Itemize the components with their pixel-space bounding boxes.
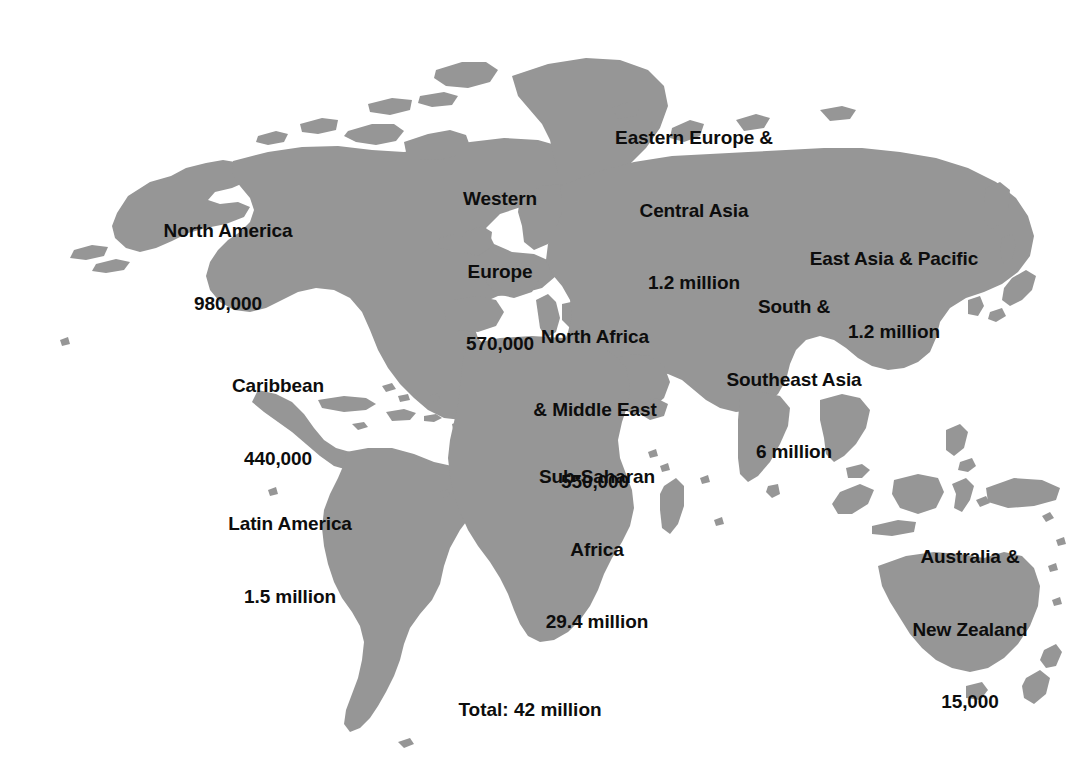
region-label-south-southeast-asia: South & Southeast Asia 6 million: [726, 247, 861, 512]
region-value: 15,000: [912, 690, 1027, 714]
region-name-line2: Europe: [463, 260, 537, 284]
region-label-western-europe: Western Europe 570,000: [463, 139, 537, 404]
region-value: 29.4 million: [539, 610, 655, 634]
region-value: 570,000: [463, 332, 537, 356]
region-name-line1: Australia &: [912, 546, 1027, 570]
region-name-line1: Western: [463, 188, 537, 212]
region-label-sub-saharan-africa: Sub-Saharan Africa 29.4 million: [539, 417, 655, 682]
region-name-line1: Eastern Europe &: [615, 127, 773, 151]
region-name: Caribbean: [232, 374, 324, 398]
world-map-figure: North America 980,000 Western Europe 570…: [0, 0, 1072, 784]
region-label-latin-america: Latin America 1.5 million: [228, 464, 352, 657]
region-label-australia-new-zealand: Australia & New Zealand 15,000: [912, 497, 1027, 762]
region-name: North America: [164, 219, 293, 243]
region-value: 6 million: [726, 440, 861, 464]
region-value: 980,000: [164, 291, 293, 315]
region-name: Latin America: [228, 512, 352, 536]
region-value: 1.5 million: [228, 584, 352, 608]
region-name-line1: South &: [726, 296, 861, 320]
region-name-line2: Africa: [539, 538, 655, 562]
region-name-line2: Central Asia: [615, 199, 773, 223]
total-label: Total: 42 million: [458, 699, 601, 721]
region-name-line2: New Zealand: [912, 618, 1027, 642]
region-name-line1: Sub-Saharan: [539, 466, 655, 490]
region-name-line2: Southeast Asia: [726, 368, 861, 392]
region-name-line1: North Africa: [533, 326, 656, 350]
